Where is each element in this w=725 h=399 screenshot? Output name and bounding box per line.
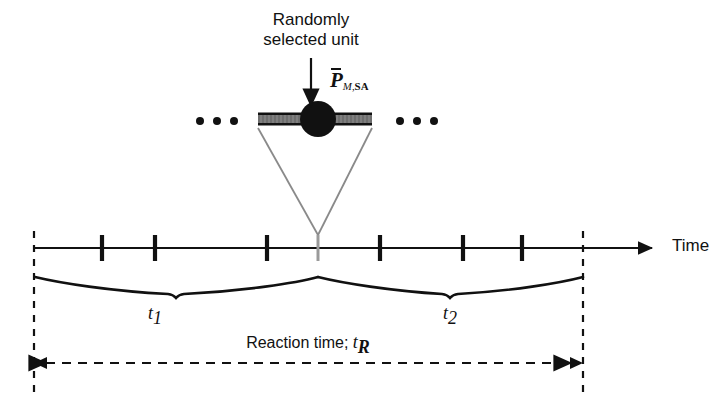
ellipsis-right-icon — [396, 117, 438, 125]
reaction-time-label: Reaction time; tR — [246, 332, 370, 358]
projection-cone — [258, 128, 372, 235]
unit-symbol-label: PM,SA — [330, 68, 369, 93]
brace-t2 — [318, 277, 583, 298]
t2-subscript: 2 — [448, 308, 457, 328]
selected-unit-marker — [300, 101, 336, 137]
p-symbol-base: P — [330, 68, 343, 92]
reaction-time-text: Reaction time; — [246, 334, 353, 351]
title-line-2: selected unit — [263, 30, 358, 50]
interval-t2-label: t2 — [443, 303, 457, 329]
time-axis-label: Time — [672, 236, 709, 256]
p-bar-symbol: P — [330, 68, 343, 93]
title-line-1: Randomly — [263, 10, 358, 30]
t1-subscript: 1 — [153, 308, 162, 328]
boundary-dashed-lines — [34, 231, 583, 392]
p-subscript-sa: SA — [355, 80, 369, 92]
brace-t1 — [35, 277, 318, 298]
p-subscript-m: M — [343, 80, 352, 92]
interval-t1-label: t1 — [148, 303, 162, 329]
randomly-selected-unit-label: Randomly selected unit — [263, 10, 358, 50]
reaction-arrow-head-left — [34, 357, 47, 369]
reaction-symbol-subscript: R — [358, 337, 370, 357]
reaction-arrow-head-right — [570, 357, 583, 369]
ellipsis-left-icon — [196, 117, 238, 125]
reaction-time-diagram: Randomly selected unit PM,SA Time t1 t2 … — [0, 0, 725, 399]
